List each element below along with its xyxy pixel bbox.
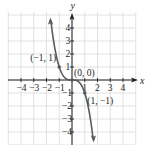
data-point: [83, 91, 87, 95]
x-axis-label: x: [139, 75, 145, 86]
x-tick-label: −4: [17, 83, 27, 93]
y-tick-label: −3: [62, 114, 72, 124]
function-graph: xy −4−3−2−112344321−1−2−3−4 (−1, 1)(0, 0…: [0, 0, 145, 145]
point-label: (1, −1): [87, 96, 113, 107]
x-tick-label: 3: [108, 83, 113, 93]
y-tick-label: 2: [66, 49, 71, 59]
y-axis-label: y: [70, 0, 76, 11]
point-label: (−1, 1): [30, 53, 56, 64]
point-label: (0, 0): [74, 68, 95, 79]
x-tick-label: −2: [42, 83, 52, 93]
x-tick-label: −3: [29, 83, 39, 93]
y-tick-label: −2: [62, 101, 72, 111]
data-point: [70, 78, 74, 82]
y-tick-label: 1: [66, 62, 71, 72]
y-tick-label: −4: [62, 127, 72, 137]
y-tick-label: 4: [66, 23, 71, 33]
y-tick-label: 3: [66, 36, 71, 46]
x-tick-label: 2: [95, 83, 100, 93]
data-point: [57, 65, 61, 69]
y-tick-label: −1: [62, 88, 72, 98]
x-tick-label: 4: [121, 83, 126, 93]
